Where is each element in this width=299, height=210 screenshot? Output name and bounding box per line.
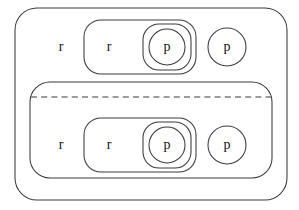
diagram-canvas: r r p p r r p p (0, 0, 299, 210)
lower-nested-p-label: p (164, 137, 171, 152)
lower-inner-r-label: r (107, 137, 112, 152)
lower-free-r-label: r (59, 137, 64, 152)
lower-free-p-label: p (224, 137, 231, 152)
nested-containment-diagram: r r p p r r p p (0, 0, 299, 210)
upper-inner-r-label: r (107, 39, 112, 54)
upper-free-p-label: p (224, 39, 231, 54)
upper-nested-p-label: p (164, 39, 171, 54)
upper-free-r-label: r (59, 39, 64, 54)
